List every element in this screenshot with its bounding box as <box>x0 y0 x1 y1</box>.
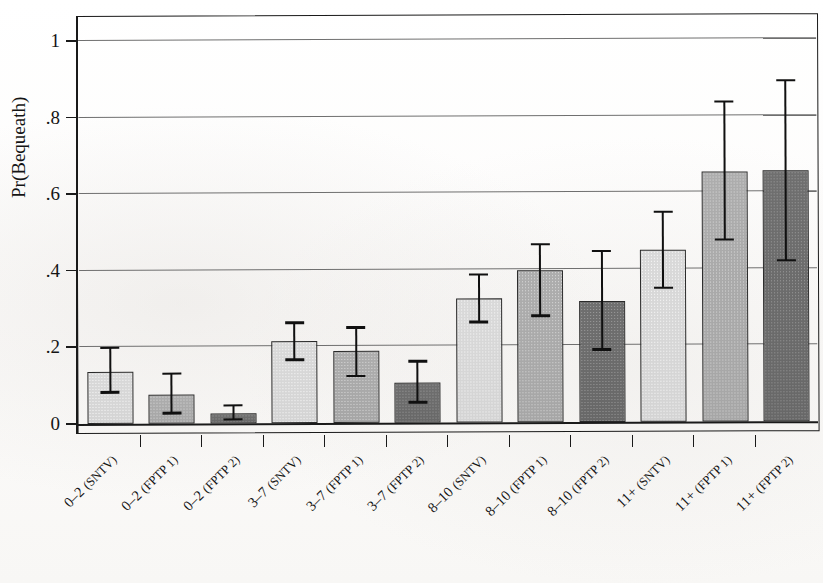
error-bar-cap-lower <box>777 259 796 262</box>
x-axis-label: 3–7 (FPTP 2) <box>310 452 427 569</box>
error-bar-stem <box>170 373 173 412</box>
error-bar-cap-lower <box>715 238 734 241</box>
x-axis-label: 11+ (FPTP 2) <box>679 452 796 569</box>
x-axis-label: 0–2 (FPTP 2) <box>126 452 243 569</box>
x-tick <box>447 435 448 447</box>
error-bar-cap-upper <box>224 404 243 407</box>
error-bar-cap-lower <box>162 412 181 415</box>
x-axis-label: 8–10 (FPTP 2) <box>495 452 612 569</box>
x-tick <box>509 435 510 447</box>
x-tick <box>140 435 141 447</box>
error-bar-stem <box>784 80 787 260</box>
error-bar-cap-upper <box>776 79 795 82</box>
y-tick-.2 <box>66 346 77 348</box>
plot-area <box>78 15 818 424</box>
x-tick <box>324 435 325 447</box>
x-axis-label: 8–10 (FPTP 1) <box>433 452 550 569</box>
error-bar-stem <box>539 244 542 316</box>
error-bar-stem <box>600 251 603 349</box>
y-tick-.6 <box>66 193 77 195</box>
x-tick <box>693 435 694 447</box>
x-axis-label: 11+ (SNTV) <box>556 452 673 569</box>
error-bar-cap-upper <box>408 360 427 363</box>
gridline-1 <box>78 37 816 41</box>
x-axis-label: 11+ (FPTP 1) <box>618 452 735 569</box>
x-tick <box>263 435 264 447</box>
error-bar-cap-upper <box>101 346 120 349</box>
gridline-.8 <box>78 114 816 118</box>
y-tick-label-0: 0 <box>20 414 60 433</box>
x-axis-label: 3–7 (FPTP 1) <box>249 452 366 569</box>
x-axis-label: 0–2 (SNTV) <box>3 452 120 569</box>
y-tick-label-.4: .4 <box>20 261 60 280</box>
x-tick <box>386 435 387 447</box>
error-bar-cap-upper <box>469 273 488 276</box>
error-bar-cap-upper <box>285 321 304 324</box>
x-tick <box>755 435 756 447</box>
error-bar-stem <box>662 212 665 288</box>
y-tick-label-.2: .2 <box>20 337 60 356</box>
error-bar-cap-lower <box>593 348 612 351</box>
y-tick-1 <box>66 40 77 42</box>
error-bar-cap-lower <box>531 314 550 317</box>
error-bar-cap-upper <box>162 372 181 375</box>
error-bar-cap-lower <box>654 286 673 289</box>
error-bar-stem <box>109 348 112 393</box>
error-bar-cap-upper <box>592 249 611 252</box>
error-bar-stem <box>416 361 419 402</box>
y-tick-0 <box>66 423 77 425</box>
x-axis-label: 3–7 (SNTV) <box>187 452 304 569</box>
error-bar-cap-lower <box>224 418 243 421</box>
error-bar-cap-lower <box>469 320 488 323</box>
error-bar-cap-upper <box>346 326 365 329</box>
x-tick <box>570 435 571 447</box>
figure-container: Pr(Bequeath) 0.2.4.6.810–2 (SNTV)0–2 (FP… <box>0 0 823 583</box>
x-tick <box>201 435 202 447</box>
error-bar-stem <box>293 323 296 360</box>
x-axis-label: 0–2 (FPTP 1) <box>64 452 181 569</box>
error-bar-cap-upper <box>531 243 550 246</box>
y-tick-.4 <box>66 270 77 272</box>
error-bar-cap-lower <box>285 358 304 361</box>
error-bar-cap-lower <box>101 391 120 394</box>
error-bar-stem <box>478 275 481 322</box>
error-bar-cap-upper <box>715 100 734 103</box>
error-bar-cap-lower <box>347 375 366 378</box>
y-tick-label-1: 1 <box>20 31 60 50</box>
y-tick-.8 <box>66 117 77 119</box>
error-bar-stem <box>355 328 358 376</box>
error-bar-stem <box>723 102 726 240</box>
error-bar-cap-lower <box>408 401 427 404</box>
y-tick-label-.8: .8 <box>20 108 60 127</box>
error-bar-cap-upper <box>653 211 672 214</box>
x-tick <box>632 435 633 447</box>
y-tick-label-.6: .6 <box>20 184 60 203</box>
x-axis-label: 8–10 (SNTV) <box>372 452 489 569</box>
